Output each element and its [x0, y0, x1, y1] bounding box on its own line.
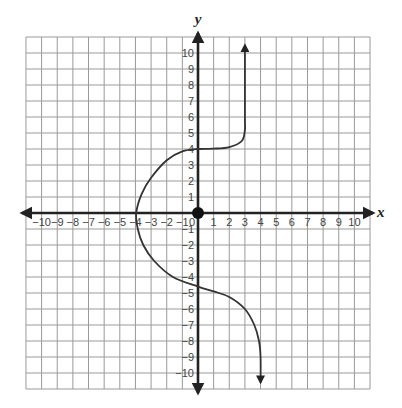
- y-axis-label: y: [193, 11, 202, 27]
- x-tick-label: 7: [304, 216, 310, 228]
- x-tick-label: 5: [273, 216, 279, 228]
- x-tick-label: −8: [67, 216, 80, 228]
- x-tick-label: 9: [336, 216, 342, 228]
- y-tick-label: 10: [182, 47, 194, 59]
- x-axis-label: x: [376, 204, 385, 220]
- y-tick-label: 6: [188, 111, 194, 123]
- y-tick-label: −10: [175, 367, 194, 379]
- y-tick-label: 2: [188, 175, 194, 187]
- coordinate-plane: −10−9−8−7−6−5−4−3−2−1012345678910−10−9−8…: [0, 0, 402, 408]
- x-tick-label: −6: [98, 216, 111, 228]
- axes: [22, 33, 373, 393]
- x-tick-label: 4: [257, 216, 263, 228]
- y-tick-label: −1: [181, 223, 194, 235]
- x-tick-label: −7: [82, 216, 95, 228]
- x-tick-label: 3: [242, 216, 248, 228]
- y-tick-label: −3: [181, 255, 194, 267]
- y-tick-label: −6: [181, 303, 194, 315]
- x-tick-label: 6: [289, 216, 295, 228]
- x-tick-label: 10: [348, 216, 360, 228]
- y-tick-label: −7: [181, 319, 194, 331]
- y-tick-label: 5: [188, 127, 194, 139]
- x-tick-label: 8: [320, 216, 326, 228]
- x-tick-label: −10: [32, 216, 51, 228]
- y-tick-label: −2: [181, 239, 194, 251]
- x-tick-label: 1: [211, 216, 217, 228]
- y-tick-label: 7: [188, 95, 194, 107]
- x-tick-label: −5: [114, 216, 127, 228]
- y-tick-label: 1: [188, 191, 194, 203]
- y-tick-label: 8: [188, 79, 194, 91]
- y-tick-label: 3: [188, 159, 194, 171]
- y-tick-label: −9: [181, 351, 194, 363]
- x-tick-label: −9: [51, 216, 64, 228]
- x-tick-label: 2: [226, 216, 232, 228]
- y-tick-label: −8: [181, 335, 194, 347]
- y-tick-label: −5: [181, 287, 194, 299]
- y-tick-label: 9: [188, 63, 194, 75]
- x-tick-label: −3: [145, 216, 158, 228]
- x-tick-label: −2: [160, 216, 173, 228]
